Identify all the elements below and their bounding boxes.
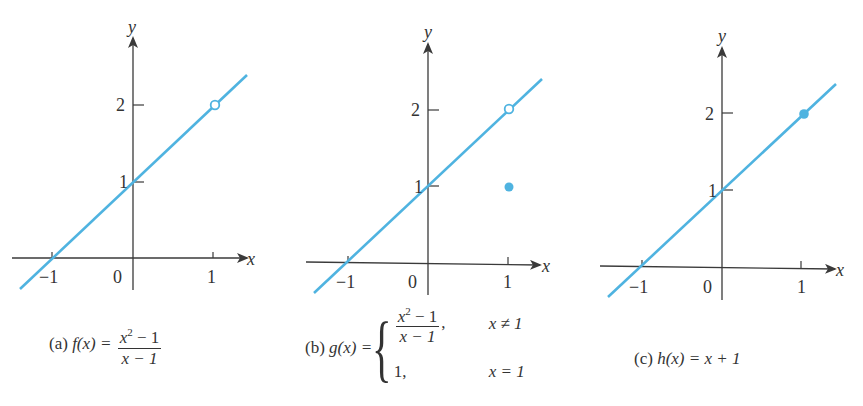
tick-label-y-1: 1 — [119, 172, 128, 192]
axis-x-label: x — [541, 256, 550, 276]
fraction: x2 − 1 x − 1 — [396, 301, 440, 348]
function-name: h(x) = — [657, 349, 700, 368]
tick-label-x-neg1: −1 — [629, 277, 648, 297]
caption-label: (a) — [49, 334, 68, 353]
case-condition: x ≠ 1 — [489, 314, 569, 334]
axis-y-label: y — [422, 22, 432, 42]
tick-label-y-1: 1 — [708, 181, 717, 201]
axis-x-label: x — [835, 260, 844, 280]
caption-c: (c) h(x) = x + 1 — [634, 349, 741, 369]
case-row-2: 1, x = 1 — [394, 348, 569, 396]
case-condition: x = 1 — [489, 362, 569, 382]
open-point-marker — [211, 101, 220, 110]
caption-b: (b) g(x) = { x2 − 1 x − 1 , x ≠ 1 1, x =… — [305, 300, 569, 396]
tick-label-x-1: 1 — [207, 267, 216, 287]
case-row-1: x2 − 1 x − 1 , x ≠ 1 — [394, 300, 569, 348]
tick-label-x-1: 1 — [503, 272, 512, 292]
tick-label-y-2: 2 — [116, 95, 125, 115]
x-axis — [306, 262, 540, 265]
caption-a: (a) f(x) = x2 − 1 x − 1 — [49, 322, 163, 369]
filled-point-marker — [799, 109, 809, 119]
tick-label-y-2: 2 — [705, 104, 714, 124]
tick-label-x-neg1: −1 — [336, 272, 355, 292]
tick-label-x-0: 0 — [408, 272, 417, 292]
caption-label: (c) — [634, 349, 653, 368]
tick-label-y-1: 1 — [414, 177, 423, 197]
panel-c-graph — [600, 48, 836, 300]
brace-symbol: { — [372, 311, 392, 385]
open-point-marker — [505, 105, 514, 114]
piecewise-cases: x2 − 1 x − 1 , x ≠ 1 1, x = 1 — [394, 300, 569, 396]
panel-a-graph — [12, 38, 247, 290]
numerator: x2 − 1 — [118, 322, 162, 349]
tick-label-x-0: 0 — [113, 267, 122, 287]
axis-x-label: x — [246, 249, 255, 269]
fraction: x2 − 1 x − 1 — [118, 322, 162, 369]
denominator: x − 1 — [118, 349, 162, 369]
axis-y-label: y — [126, 17, 136, 37]
filled-point-marker — [505, 183, 514, 192]
function-name: f(x) = — [72, 334, 111, 353]
x-axis — [600, 266, 835, 269]
tick-label-x-0: 0 — [703, 277, 712, 297]
tick-label-y-2: 2 — [411, 100, 420, 120]
function-name: g(x) = — [329, 338, 372, 357]
function-rhs: x + 1 — [704, 349, 740, 368]
tick-label-x-1: 1 — [797, 277, 806, 297]
panel-b-graph — [306, 44, 542, 295]
tick-label-x-neg1: −1 — [39, 267, 58, 287]
caption-label: (b) — [305, 338, 325, 357]
axis-y-label: y — [716, 26, 726, 46]
